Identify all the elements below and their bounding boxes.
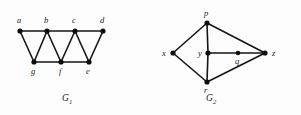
vertex-label-f: f — [59, 66, 63, 76]
caption-g1-subscript: 1 — [69, 98, 72, 105]
vertex-p — [204, 20, 209, 25]
vertex-r — [204, 79, 209, 84]
edge-y-r — [207, 53, 208, 82]
vertex-y — [205, 50, 210, 55]
edge-x-p — [173, 23, 207, 53]
graph-figure-container: a b c d g f e G 1 — [0, 0, 301, 115]
vertex-label-e: e — [86, 66, 90, 76]
g1-vertex-labels: a b c d g f e — [17, 15, 105, 76]
graph-diagram-canvas: a b c d g f e G 1 — [0, 0, 301, 115]
edge-b-f — [47, 31, 61, 62]
vertex-label-z: z — [271, 48, 276, 58]
vertex-label-b: b — [44, 15, 48, 25]
graph-g2: p x y q z r G 2 — [161, 8, 276, 105]
caption-g2-subscript: 2 — [213, 98, 217, 105]
g2-edges — [173, 23, 265, 82]
vertex-c — [72, 28, 77, 33]
edge-c-e — [75, 31, 89, 62]
edge-x-r — [173, 53, 207, 82]
vertex-label-q: q — [235, 56, 240, 66]
vertex-x — [170, 50, 175, 55]
g1-edges — [20, 31, 103, 62]
edge-p-z — [207, 23, 265, 53]
edge-a-g — [20, 31, 34, 62]
vertex-label-c: c — [72, 15, 76, 25]
g2-caption: G 2 — [206, 93, 217, 105]
g1-caption: G 1 — [62, 93, 72, 105]
vertex-label-x: x — [161, 48, 166, 58]
vertex-a — [17, 28, 22, 33]
edge-p-y — [207, 23, 208, 53]
graph-g1: a b c d g f e G 1 — [17, 15, 106, 105]
caption-g2-base: G — [206, 93, 213, 103]
edge-e-d — [89, 31, 103, 62]
vertex-b — [44, 28, 49, 33]
vertex-e — [86, 59, 91, 64]
g2-vertex-labels: p x y q z r — [161, 8, 276, 95]
vertex-g — [31, 59, 36, 64]
vertex-z — [262, 50, 267, 55]
vertex-f — [58, 59, 63, 64]
vertex-label-g: g — [31, 66, 35, 76]
vertex-label-d: d — [100, 15, 105, 25]
vertex-d — [100, 28, 105, 33]
vertex-label-a: a — [17, 15, 21, 25]
vertex-label-p: p — [203, 8, 208, 18]
edge-g-b — [34, 31, 47, 62]
vertex-q — [236, 51, 241, 56]
caption-g1-base: G — [62, 93, 69, 103]
vertex-label-y: y — [197, 48, 202, 58]
edge-f-c — [61, 31, 75, 62]
